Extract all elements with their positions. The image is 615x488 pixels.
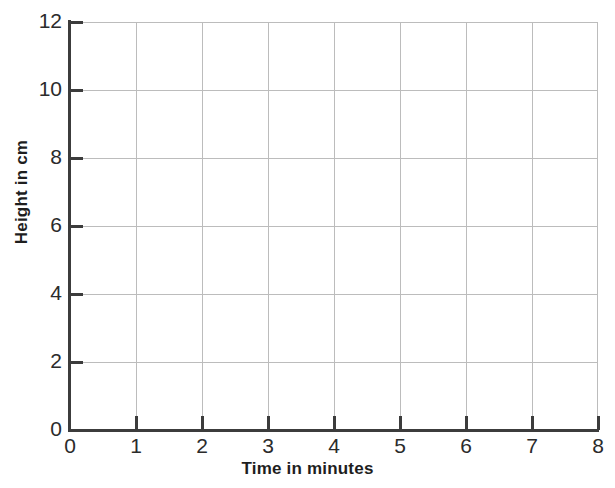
x-tick-label: 2 bbox=[182, 434, 222, 458]
x-tick-label: 6 bbox=[446, 434, 486, 458]
gridline-horizontal bbox=[70, 90, 598, 91]
y-axis-tick bbox=[70, 157, 83, 160]
x-axis-tick bbox=[201, 416, 204, 430]
gridline-horizontal bbox=[70, 226, 598, 227]
x-axis-tick bbox=[399, 416, 402, 430]
x-tick-label: 3 bbox=[248, 434, 288, 458]
x-tick-label: 5 bbox=[380, 434, 420, 458]
y-axis-tick bbox=[70, 21, 83, 24]
x-axis-tick bbox=[333, 416, 336, 430]
x-axis-title: Time in minutes bbox=[0, 459, 615, 479]
blank-graph-grid: 024681012 012345678 Height in cm Time in… bbox=[0, 0, 615, 488]
x-axis-tick bbox=[135, 416, 138, 430]
gridline-horizontal bbox=[70, 362, 598, 363]
y-axis-tick bbox=[70, 361, 83, 364]
x-tick-label: 7 bbox=[512, 434, 552, 458]
x-axis-tick bbox=[465, 416, 468, 430]
x-tick-label: 4 bbox=[314, 434, 354, 458]
y-axis-tick bbox=[70, 89, 83, 92]
x-tick-label: 0 bbox=[50, 434, 90, 458]
gridline-horizontal bbox=[70, 158, 598, 159]
y-tick-label: 12 bbox=[26, 9, 62, 33]
x-tick-label: 8 bbox=[578, 434, 615, 458]
y-tick-label: 2 bbox=[26, 349, 62, 373]
y-axis-tick bbox=[70, 293, 83, 296]
y-axis-tick bbox=[70, 225, 83, 228]
x-axis-tick bbox=[531, 416, 534, 430]
gridline-horizontal bbox=[70, 294, 598, 295]
plot-area bbox=[70, 22, 598, 430]
x-axis-tick bbox=[597, 416, 600, 430]
y-tick-label: 10 bbox=[26, 77, 62, 101]
x-axis-tick bbox=[267, 416, 270, 430]
y-tick-label: 4 bbox=[26, 281, 62, 305]
y-axis-title: Height in cm bbox=[12, 112, 32, 272]
x-tick-label: 1 bbox=[116, 434, 156, 458]
